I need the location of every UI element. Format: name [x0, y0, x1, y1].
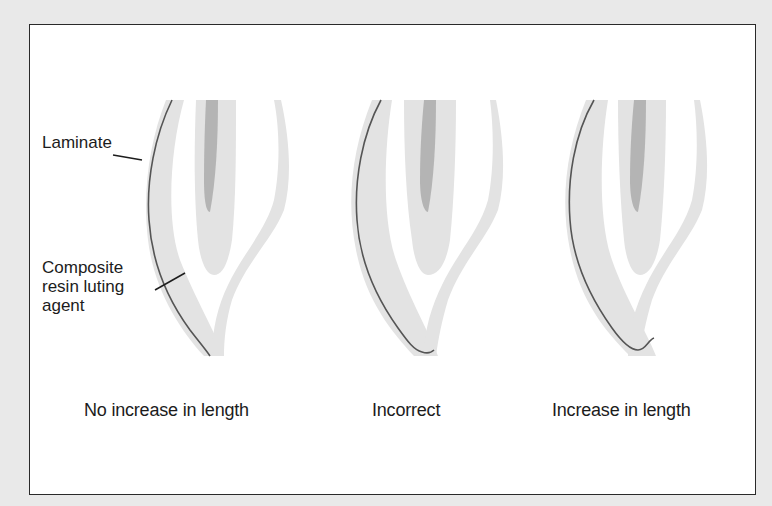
composite-label-line3: agent: [42, 296, 85, 316]
composite-label-line1: Composite: [42, 258, 123, 278]
tooth-increase: [565, 100, 707, 356]
tooth-incorrect: [351, 100, 503, 356]
laminate-leader-line: [113, 155, 142, 160]
caption-increase: Increase in length: [552, 400, 691, 421]
composite-label-line2: resin luting: [42, 277, 124, 297]
tooth-diagrams: [0, 0, 772, 506]
caption-incorrect: Incorrect: [372, 400, 440, 421]
caption-no-increase: No increase in length: [84, 400, 249, 421]
laminate-label: Laminate: [42, 133, 112, 153]
tooth-no-increase: [146, 100, 289, 356]
